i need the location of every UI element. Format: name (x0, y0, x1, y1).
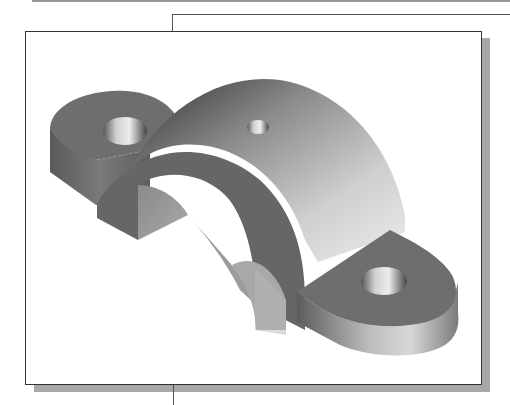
top-hole (247, 120, 269, 134)
left-lug-hole (103, 117, 147, 145)
cad-part-illustration (0, 0, 510, 405)
right-lug-hole (361, 267, 407, 295)
